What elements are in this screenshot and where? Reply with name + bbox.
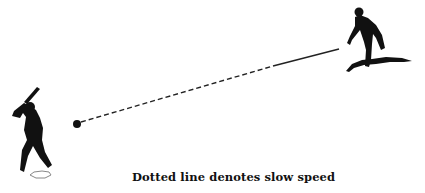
baseball (73, 120, 81, 128)
pitchers-mound (346, 57, 412, 72)
pitch-diagram (0, 0, 425, 193)
pitch-trajectory (81, 49, 339, 122)
trajectory-solid-segment (273, 49, 339, 66)
batter-silhouette (12, 87, 52, 172)
diagram-caption: Dotted line denotes slow speed (132, 170, 335, 184)
home-plate (30, 171, 51, 178)
trajectory-dashed-segment (81, 66, 273, 122)
